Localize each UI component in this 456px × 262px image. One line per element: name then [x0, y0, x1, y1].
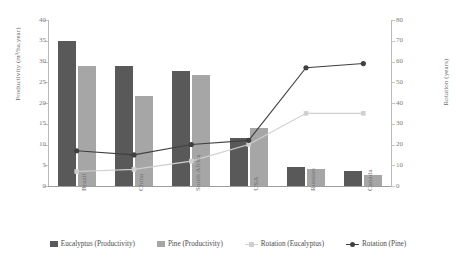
legend-label: Rotation (Eucalyptus) — [261, 240, 324, 248]
legend-line-marker-icon — [245, 241, 258, 248]
x-axis-label-usa: USA — [252, 177, 260, 191]
x-axis-label-south-africa: South Africa — [194, 154, 202, 191]
y-axis-left-tick-label: 0 — [6, 183, 46, 190]
legend-swatch-icon — [157, 241, 165, 247]
y-axis-left-tick-label: 35 — [6, 37, 46, 44]
legend-item-pine-productivity[interactable]: Pine (Productivity) — [157, 240, 223, 248]
line-series-overlay — [48, 20, 392, 187]
y-axis-right-tick-label: 60 — [396, 58, 436, 65]
y-axis-left-tick-label: 10 — [6, 141, 46, 148]
y-axis-left-tick-label: 5 — [6, 162, 46, 169]
y-axis-right-tick-label: 30 — [396, 120, 436, 127]
marker-circle-china — [131, 152, 136, 157]
marker-circle-south-africa — [189, 142, 194, 147]
y-axis-right-tick-label: 0 — [396, 183, 436, 190]
y-axis-right-tick-label: 40 — [396, 100, 436, 107]
line-rotation-pine — [77, 64, 364, 155]
legend-label: Rotation (Pine) — [362, 240, 406, 248]
y-axis-left-tick-label: 40 — [6, 17, 46, 24]
marker-square-south-africa — [189, 159, 194, 164]
x-axis-label-canada: Canada — [366, 169, 374, 191]
legend-label: Eucalyptus (Productivity) — [61, 240, 135, 248]
y-axis-left-tick-label: 25 — [6, 79, 46, 86]
marker-square-china — [132, 167, 137, 172]
y-axis-left-tick-label: 20 — [6, 100, 46, 107]
chart-legend: Eucalyptus (Productivity)Pine (Productiv… — [0, 237, 456, 251]
marker-square-brazil — [74, 169, 79, 174]
legend-item-rotation-eucalyptus[interactable]: Rotation (Eucalyptus) — [245, 240, 324, 248]
legend-item-eucalyptus-productivity[interactable]: Eucalyptus (Productivity) — [50, 240, 135, 248]
y-axis-right-tick-label: 80 — [396, 17, 436, 24]
y-axis-right-tick-label: 70 — [396, 37, 436, 44]
x-axis-label-brazil: Brazil — [80, 173, 88, 191]
marker-circle-russian — [303, 65, 308, 70]
marker-circle-canada — [361, 61, 366, 66]
y-axis-right-title: Rotation (years) — [442, 34, 450, 130]
y-axis-left-tick-label: 30 — [6, 58, 46, 65]
marker-square-canada — [361, 111, 366, 116]
y-axis-left-tick-label: 15 — [6, 120, 46, 127]
legend-swatch-icon — [50, 241, 58, 247]
y-axis-right-tick-label: 20 — [396, 141, 436, 148]
marker-circle-usa — [246, 138, 251, 143]
legend-line-marker-icon — [346, 241, 359, 248]
plot-area: 0510152025303540 01020304050607080 — [48, 20, 392, 186]
x-axis-label-china: China — [137, 174, 145, 191]
chart-figure: Productivity (m³/ha.year) Rotation (year… — [0, 0, 456, 262]
y-axis-right-tick-label: 50 — [396, 79, 436, 86]
marker-square-russian — [304, 111, 309, 116]
legend-label: Pine (Productivity) — [168, 240, 223, 248]
x-axis-label-russian: Russian — [309, 168, 317, 191]
legend-item-rotation-pine[interactable]: Rotation (Pine) — [346, 240, 406, 248]
marker-circle-brazil — [74, 148, 79, 153]
y-axis-right-tick-label: 10 — [396, 162, 436, 169]
